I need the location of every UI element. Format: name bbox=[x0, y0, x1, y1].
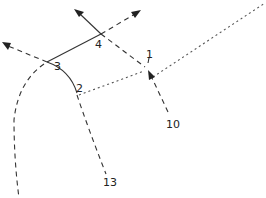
edge-3-4 bbox=[47, 34, 101, 62]
node-label-2: 2 bbox=[76, 82, 83, 95]
edge-4-up-left bbox=[80, 14, 101, 34]
node-label-13: 13 bbox=[103, 176, 117, 189]
edge-3-bottom-left bbox=[14, 64, 44, 198]
edge-2-13 bbox=[77, 95, 106, 174]
edge-3-left bbox=[8, 46, 47, 62]
node-label-1: 1 bbox=[146, 48, 153, 61]
edge-4-1 bbox=[101, 34, 145, 67]
arrow-up-icon bbox=[148, 70, 155, 80]
edge-1-top-right bbox=[153, 3, 265, 77]
edge-4-up-right bbox=[101, 14, 135, 34]
edge-10-1 bbox=[152, 78, 168, 112]
edge-2-1 bbox=[79, 71, 144, 95]
node-label-4: 4 bbox=[95, 38, 102, 51]
arrow-left-icon bbox=[2, 42, 11, 50]
node-label-3: 3 bbox=[54, 60, 61, 73]
edge-3-2 bbox=[47, 62, 77, 93]
node-label-10: 10 bbox=[166, 118, 180, 131]
arrow-up-right-icon bbox=[131, 10, 141, 18]
flow-diagram: 1 2 3 4 10 13 bbox=[0, 0, 266, 198]
